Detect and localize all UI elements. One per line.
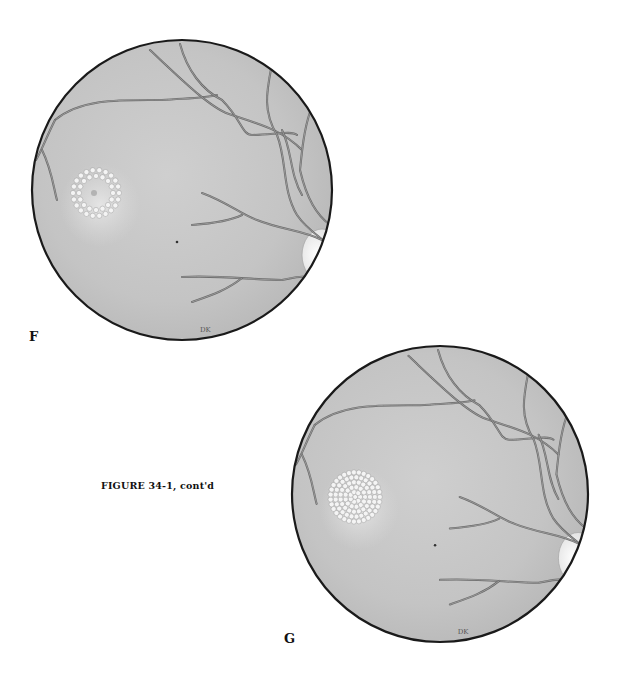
laser-spot [100,175,105,180]
laser-spot [87,206,92,211]
laser-spot [74,178,79,183]
laser-spot [103,169,108,174]
laser-spot [81,178,86,183]
laser-spot [372,499,377,504]
laser-spot [97,168,102,173]
figure-caption: FIGURE 34-1, cont'd [101,480,214,491]
laser-spot [78,208,83,213]
laser-spot [343,497,348,502]
laser-spot [349,475,354,480]
panel-label-f: F [29,329,38,344]
panel-label-g: G [284,631,295,646]
laser-spot [105,202,110,207]
artist-signature: DK [200,326,212,334]
laser-spot [78,197,83,202]
laser-spot [338,497,343,502]
laser-spot [108,208,113,213]
macular-center [91,190,97,196]
laser-spot [356,519,361,524]
laser-spot [333,492,338,497]
laser-spot [103,211,108,216]
laser-spot [334,502,339,507]
laser-spot [81,202,86,207]
laser-spot [367,490,372,495]
laser-spot [78,173,83,178]
laser-spot [338,492,343,497]
laser-spot [377,489,382,494]
laser-spot [372,489,377,494]
laser-spot [328,497,333,502]
laser-spot [342,472,347,477]
laser-spot [370,485,375,490]
laser-spot [87,175,92,180]
fovea-dot [176,241,179,244]
laser-spot [70,190,75,195]
laser-spot [76,190,81,195]
laser-spot [333,497,338,502]
laser-spot [105,178,110,183]
laser-spot [367,494,372,499]
laser-spot [329,487,334,492]
laser-spot [100,206,105,211]
laser-spot [97,213,102,218]
laser-spot [109,184,114,189]
laser-spot [74,203,79,208]
laser-spot [93,173,98,178]
laser-spot [109,197,114,202]
laser-spot [329,502,334,507]
figure-illustrations: DK DK [0,0,624,676]
laser-spot [331,506,336,511]
laser-spot [349,514,354,519]
laser-spot [351,509,356,514]
laser-spot [362,494,367,499]
laser-spot [90,213,95,218]
fundus-panel-f: DK [32,40,342,340]
laser-spot [90,168,95,173]
artist-signature: DK [458,628,470,636]
figure-page: DK DK F FIGURE 34-1, cont'd G [0,0,624,676]
laser-spot [93,207,98,212]
laser-spot [351,519,356,524]
lesion-halo [60,163,140,247]
laser-spot [361,490,366,495]
laser-spot [328,492,333,497]
laser-spot [116,190,121,195]
laser-spot [115,197,120,202]
laser-spot [346,518,351,523]
laser-spot [354,504,359,509]
laser-spot [115,184,120,189]
fundus-panel-g: DK [292,346,598,642]
laser-spot [346,471,351,476]
laser-spot [356,470,361,475]
laser-spot [84,169,89,174]
laser-spot [351,480,356,485]
laser-spot [113,178,118,183]
laser-spot [108,173,113,178]
laser-spot [361,518,366,523]
laser-spot [354,475,359,480]
laser-spot [377,499,382,504]
laser-spot [351,470,356,475]
laser-spot [78,184,83,189]
laser-spot [71,197,76,202]
laser-spot [84,211,89,216]
laser-spot [375,485,380,490]
laser-spot [113,203,118,208]
laser-spot [71,184,76,189]
laser-spot [372,494,377,499]
laser-spot [340,501,345,506]
laser-spot [354,514,359,519]
laser-spot [110,190,115,195]
fovea-dot [434,544,437,547]
laser-spot [377,494,382,499]
